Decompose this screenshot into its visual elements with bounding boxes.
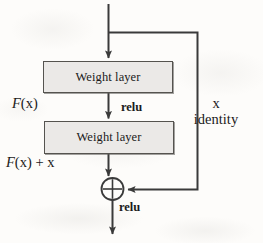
addition-node-icon xyxy=(102,178,124,200)
weight-layer-1-label: Weight layer xyxy=(75,70,140,85)
identity-shortcut-label: x identity xyxy=(178,96,254,127)
identity-label-identity: identity xyxy=(178,112,254,128)
residual-block-diagram: Weight layer Weight layer F(x) F(x) + x … xyxy=(0,0,263,243)
weight-layer-2-box: Weight layer xyxy=(44,121,174,154)
f-of-x-label: F(x) xyxy=(12,96,38,112)
f-of-x-plus-x-italic: F xyxy=(6,154,15,170)
f-of-x-italic: F xyxy=(12,95,21,111)
f-of-x-plus-x-label: F(x) + x xyxy=(6,155,54,171)
relu-label-after-addition: relu xyxy=(119,201,140,215)
weight-layer-2-label: Weight layer xyxy=(76,130,141,145)
relu-label-after-weight-layer-1: relu xyxy=(121,101,142,115)
identity-label-x: x xyxy=(178,96,254,112)
f-of-x-plus-x-upright: (x) + x xyxy=(15,154,55,170)
f-of-x-upright: (x) xyxy=(21,95,38,111)
weight-layer-1-box: Weight layer xyxy=(43,61,173,93)
